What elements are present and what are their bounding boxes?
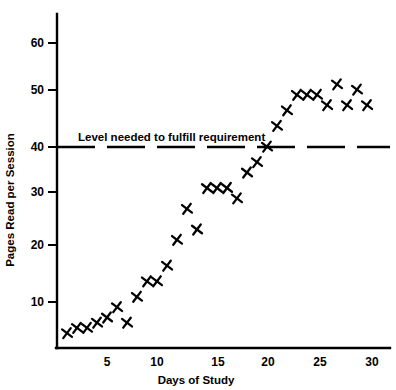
data-point-marker (282, 105, 292, 115)
y-tick-label-10: 10 (31, 295, 45, 309)
data-point-marker (292, 90, 302, 100)
data-point-marker (162, 261, 172, 271)
data-point-marker (92, 318, 102, 328)
scatter-plot-svg: 60 50 40 30 20 10 5 10 15 20 25 30 Days … (0, 0, 396, 390)
x-tick-label-10: 10 (150, 355, 164, 369)
y-tick-label-60: 60 (31, 36, 45, 50)
data-point-marker (222, 183, 232, 193)
data-point-marker (112, 302, 122, 312)
x-tick-label-25: 25 (313, 355, 327, 369)
data-point-marker (122, 318, 132, 328)
data-point-marker (62, 328, 72, 338)
data-point-marker (252, 157, 262, 167)
data-point-marker (172, 235, 182, 245)
x-axis-title: Days of Study (158, 374, 235, 386)
data-point-marker (302, 90, 312, 100)
data-point-marker (152, 276, 162, 286)
reference-line-label: Level needed to fulfill requirement (78, 131, 265, 143)
data-point-marker (362, 100, 372, 110)
data-point-marker (212, 183, 222, 193)
data-point-group (62, 79, 372, 338)
chart-container: 60 50 40 30 20 10 5 10 15 20 25 30 Days … (0, 0, 396, 390)
data-point-marker (342, 100, 352, 110)
y-tick-label-30: 30 (31, 185, 45, 199)
data-point-marker (202, 183, 212, 193)
data-point-marker (272, 121, 282, 131)
data-point-marker (182, 204, 192, 214)
y-tick-label-20: 20 (31, 238, 45, 252)
y-tick-label-40: 40 (31, 140, 45, 154)
y-axis-ticks (48, 43, 57, 302)
x-tick-label-5: 5 (104, 355, 111, 369)
x-tick-label-30: 30 (365, 355, 379, 369)
y-axis-title: Pages Read per Session (4, 133, 16, 267)
data-point-marker (332, 79, 342, 89)
y-tick-label-50: 50 (31, 83, 45, 97)
x-tick-label-20: 20 (261, 355, 275, 369)
data-point-marker (142, 276, 152, 286)
data-point-marker (82, 323, 92, 333)
x-tick-label-15: 15 (211, 355, 225, 369)
data-point-marker (72, 323, 82, 333)
data-point-marker (242, 168, 252, 178)
data-point-marker (102, 313, 112, 323)
data-point-marker (312, 90, 322, 100)
data-point-marker (192, 225, 202, 235)
data-point-marker (352, 85, 362, 95)
data-point-marker (132, 292, 142, 302)
data-point-marker (322, 100, 332, 110)
data-point-marker (232, 193, 242, 203)
